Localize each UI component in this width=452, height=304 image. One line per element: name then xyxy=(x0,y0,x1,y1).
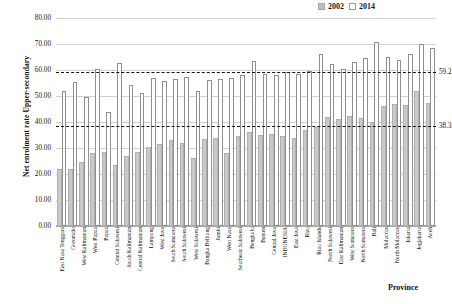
bar-group xyxy=(279,18,290,226)
bar-group xyxy=(291,18,302,226)
x-tick-cell: East Kalimantan xyxy=(335,227,346,289)
bar-2014 xyxy=(352,62,357,226)
bar-group xyxy=(268,18,279,226)
x-axis-tick-label: South Sulawesi xyxy=(181,227,187,262)
legend-item-2014: 2014 xyxy=(349,2,375,11)
bar-2014 xyxy=(330,64,335,226)
x-tick-cell: Southeast Sulawesi xyxy=(235,227,246,289)
bar-2014 xyxy=(106,112,111,226)
x-axis-tick-label: Bali xyxy=(371,227,377,236)
chart-legend: 2002 2014 xyxy=(318,2,375,11)
bar-group xyxy=(112,18,123,226)
x-tick-cell: North Moluccas xyxy=(391,227,402,289)
bar-2014 xyxy=(341,69,346,226)
x-axis-tick-label: Lampung xyxy=(148,227,154,248)
x-tick-cell: West Papua xyxy=(90,227,101,289)
x-axis-tick-label: Jambi xyxy=(215,227,221,240)
x-axis-tick-label: Aceh xyxy=(427,227,433,239)
bar-group xyxy=(235,18,246,226)
x-tick-cell: South Kalimantan xyxy=(123,227,134,289)
bar-group xyxy=(67,18,78,226)
bar-series-container xyxy=(56,18,436,226)
legend-item-2002: 2002 xyxy=(318,2,344,11)
bar-2014 xyxy=(73,82,78,226)
x-axis-tick-label: Papua xyxy=(103,227,109,241)
x-axis-tick-label: Central Java xyxy=(271,227,277,255)
x-tick-cell: Banten xyxy=(257,227,268,289)
x-tick-cell: Central Java xyxy=(268,227,279,289)
y-axis-tick-label: 20.00 xyxy=(35,170,51,178)
bar-group xyxy=(224,18,235,226)
bar-2014 xyxy=(319,54,324,226)
x-axis-tick-label: North Sulawesi xyxy=(327,227,333,262)
lower-average-2002-label: 38.3 xyxy=(439,122,452,130)
bar-group xyxy=(179,18,190,226)
x-axis-tick-label: West Papua xyxy=(92,227,98,253)
legend-swatch-2014 xyxy=(349,3,356,10)
x-tick-cell: Bangka Belitung xyxy=(201,227,212,289)
bar-2014 xyxy=(386,57,391,226)
bar-group xyxy=(257,18,268,226)
bar-group xyxy=(123,18,134,226)
x-tick-cell: East Nusa Tenggara xyxy=(56,227,67,289)
x-axis-tick-label: Bengkulu xyxy=(249,227,255,249)
x-axis-tick-label: East Java xyxy=(293,227,299,248)
bar-group xyxy=(335,18,346,226)
x-tick-cell: Jogjakarta xyxy=(414,227,425,289)
bar-2014 xyxy=(229,78,234,226)
bar-group xyxy=(425,18,436,226)
bar-2014 xyxy=(207,80,212,226)
x-axis-tick-labels: East Nusa TenggaraGorontaloWest Kalimant… xyxy=(56,227,436,289)
x-axis-tick-label: West Nusa xyxy=(226,227,232,251)
bar-group xyxy=(134,18,145,226)
x-tick-cell: North Sumatera xyxy=(358,227,369,289)
bar-2014 xyxy=(162,81,167,226)
y-axis-tick-label: 80.00 xyxy=(35,14,51,22)
bar-group xyxy=(157,18,168,226)
x-axis-tick-label: Jogjakarta xyxy=(416,227,422,250)
bar-2014 xyxy=(184,77,189,226)
upper-average-2014-label: 59.2 xyxy=(439,68,452,76)
bar-group xyxy=(391,18,402,226)
bar-2014 xyxy=(307,71,312,226)
x-axis-tick-label: South Sumatera xyxy=(170,227,176,263)
bar-group xyxy=(212,18,223,226)
x-axis-tick-label: Gorontalo xyxy=(70,227,76,250)
x-tick-cell: Jakarta xyxy=(402,227,413,289)
y-axis-tick-label: 70.00 xyxy=(35,40,51,48)
x-tick-cell: Central Kalimantan xyxy=(134,227,145,289)
x-axis-tick-label: North Moluccas xyxy=(394,227,400,263)
y-axis-tick-label: 10.00 xyxy=(35,196,51,204)
y-axis-title: Net enrolment rate Upper-secondary xyxy=(22,42,31,192)
bar-2014 xyxy=(196,91,201,226)
bar-2014 xyxy=(397,60,402,226)
bar-group xyxy=(402,18,413,226)
x-axis-tick-label: Riau xyxy=(304,227,310,238)
bar-group xyxy=(246,18,257,226)
x-tick-cell: Moluccas xyxy=(380,227,391,289)
bar-group xyxy=(101,18,112,226)
bar-group xyxy=(324,18,335,226)
x-tick-cell: Jambi xyxy=(212,227,223,289)
x-axis-tick-label: East Nusa Tenggara xyxy=(59,227,65,272)
y-axis-tick-label: 30.00 xyxy=(35,144,51,152)
x-tick-cell: Gorontalo xyxy=(67,227,78,289)
bar-2014 xyxy=(117,63,122,226)
x-tick-cell: INDONESIA xyxy=(279,227,290,289)
x-tick-cell: East Java xyxy=(291,227,302,289)
x-axis-tick-label: Southeast Sulawesi xyxy=(237,227,243,270)
x-tick-cell: Bengkulu xyxy=(246,227,257,289)
x-axis-tick-label: West Kalimantan xyxy=(81,227,87,266)
bar-group xyxy=(346,18,357,226)
bar-2014 xyxy=(363,58,368,226)
x-axis-tick-label: Central Sulawesi xyxy=(114,227,120,265)
x-tick-cell: Central Sulawesi xyxy=(112,227,123,289)
legend-swatch-2002 xyxy=(318,3,325,10)
bar-group xyxy=(380,18,391,226)
bar-2014 xyxy=(62,91,67,226)
legend-label-2014: 2014 xyxy=(359,2,375,11)
x-axis-tick-label: Bangka Belitung xyxy=(204,227,210,265)
lower-average-2002 xyxy=(56,126,436,127)
bar-group xyxy=(78,18,89,226)
